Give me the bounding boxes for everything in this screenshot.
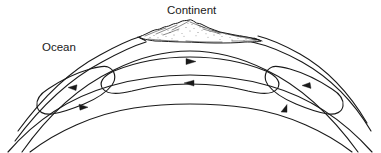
diagram-canvas: Continent Ocean [0,0,381,153]
flow-arrow-center-cell-bottom [184,80,194,86]
continent-landmass [139,20,261,43]
convection-cell-right [265,66,343,114]
layer-deep-arc [30,104,352,152]
layer-lower-mantle-arc [8,75,372,152]
flow-arrow-left-cell-top [68,85,77,91]
flow-arrow-right-cell-bottom [281,105,287,113]
flow-arrow-right-cell-top [302,83,311,89]
flow-arrow-left-cell-bottom [79,104,88,110]
mantle-convection-diagram: Continent Ocean [0,0,381,153]
ocean-label: Ocean [42,41,76,53]
flow-arrow-center-cell-top [186,59,196,65]
continent-label: Continent [167,4,217,16]
